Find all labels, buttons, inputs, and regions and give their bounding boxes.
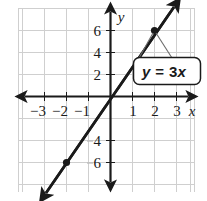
y-tick-label-2: 2 xyxy=(94,67,102,83)
plot-area: y=3x −3 −2 −1 1 2 3 x 6 4 2 4 6 y xyxy=(0,0,207,201)
equation-equals-sign: = xyxy=(155,63,164,80)
point-neg2-neg6 xyxy=(63,159,70,166)
x-tick-label-neg3: −3 xyxy=(30,103,46,119)
x-tick-label-2: 2 xyxy=(151,103,159,119)
x-axis-name-label: x xyxy=(188,103,196,119)
y-axis-name-label: y xyxy=(116,9,125,25)
equation-variable-x: x xyxy=(176,63,186,80)
y-tick-label-4: 4 xyxy=(94,45,102,61)
y-tick-label-6: 6 xyxy=(94,23,102,39)
x-tick-label-3: 3 xyxy=(173,103,181,119)
coordinate-graph-figure: y=3x −3 −2 −1 1 2 3 x 6 4 2 4 6 y xyxy=(0,0,207,201)
equation-label: y=3x xyxy=(141,63,186,80)
point-2-6 xyxy=(151,27,158,34)
leader-line-left xyxy=(139,33,153,58)
x-tick-label-neg1: −1 xyxy=(74,103,90,119)
y-tick-label-neg4: 4 xyxy=(94,133,102,149)
negative-sign-marks xyxy=(87,141,93,163)
x-tick-label-neg2: −2 xyxy=(52,103,68,119)
equation-coefficient: 3 xyxy=(169,63,177,80)
callout-leader-lines xyxy=(139,33,172,58)
axes xyxy=(25,12,188,182)
leader-line-right xyxy=(156,33,172,58)
equation-variable-y: y xyxy=(141,63,151,80)
x-tick-label-1: 1 xyxy=(129,103,137,119)
y-tick-label-neg6: 6 xyxy=(94,155,102,171)
